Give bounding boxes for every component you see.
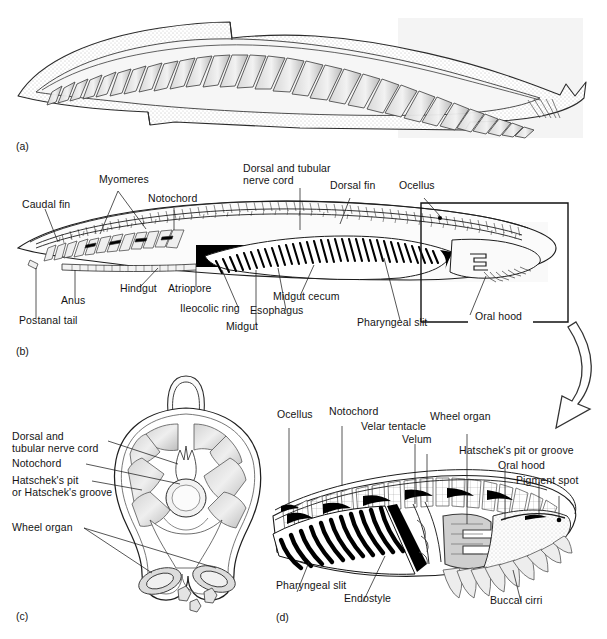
label-dorsal-nerve-cord-b-2: nerve cord — [243, 175, 294, 187]
label-notochord-d: Notochord — [329, 406, 378, 418]
panel-b-id: (b) — [16, 345, 29, 357]
label-velar-tentacle: Velar tentacle — [361, 421, 426, 433]
label-dorsal-fin: Dorsal fin — [330, 180, 375, 192]
label-buccal-cirri: Buccal cirri — [490, 595, 543, 607]
scan-tint-top-right — [398, 18, 583, 138]
label-hatscheks-pit-d: Hatschek's pit or groove — [459, 445, 574, 457]
label-ocellus-d: Ocellus — [277, 409, 313, 421]
label-dorsal-nerve-cord-c-1: Dorsal and — [12, 431, 64, 443]
label-midgut: Midgut — [226, 321, 258, 333]
label-notochord-b: Notochord — [148, 193, 197, 205]
label-pharyngeal-slit-d: Pharyngeal slit — [276, 580, 346, 592]
label-oral-hood-b: Oral hood — [475, 311, 522, 323]
label-myomeres: Myomeres — [99, 174, 149, 186]
label-hatscheks-pit-c-1: Hatschek's pit — [12, 475, 78, 487]
label-ileocolic-ring: Ileocolic ring — [180, 303, 240, 315]
figure-canvas: (a) — [0, 0, 607, 639]
label-esophagus: Esophagus — [250, 305, 303, 317]
label-pigment-spot: Pigment spot — [516, 475, 578, 487]
label-notochord-c: Notochord — [12, 458, 61, 470]
label-midgut-cecum: Midgut cecum — [273, 291, 340, 303]
label-caudal-fin: Caudal fin — [22, 199, 70, 211]
label-atriopore: Atriopore — [168, 283, 212, 295]
label-velum: Velum — [402, 434, 432, 446]
label-postanal-tail: Postanal tail — [19, 315, 78, 327]
label-oral-hood-d: Oral hood — [498, 460, 545, 472]
label-wheel-organ-c: Wheel organ — [12, 522, 73, 534]
label-hindgut: Hindgut — [120, 283, 157, 295]
label-endostyle: Endostyle — [344, 593, 391, 605]
panel-d-id: (d) — [276, 611, 289, 623]
scan-tint-mid-right — [398, 222, 548, 282]
panel-a-id: (a) — [16, 140, 29, 152]
label-dorsal-nerve-cord-c-2: tubular nerve cord — [12, 443, 98, 455]
label-anus: Anus — [61, 295, 85, 307]
label-dorsal-nerve-cord-b-1: Dorsal and tubular — [243, 163, 331, 175]
label-hatscheks-pit-c-2: or Hatschek's groove — [12, 487, 112, 499]
label-ocellus-b: Ocellus — [399, 180, 435, 192]
label-pharyngeal-slit-b: Pharyngeal slit — [357, 317, 427, 329]
panel-c-id: (c) — [16, 610, 28, 622]
label-wheel-organ-d: Wheel organ — [430, 411, 491, 423]
